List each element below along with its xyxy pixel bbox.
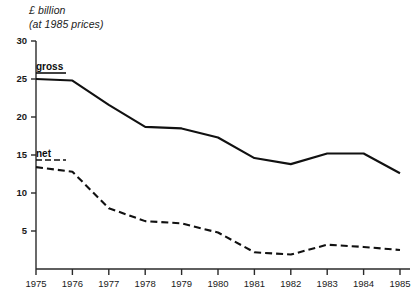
plot-area — [0, 0, 419, 300]
axis-ticks — [31, 41, 400, 275]
series-line-gross — [36, 79, 400, 173]
series-label-gross: gross — [36, 61, 63, 72]
series-label-net: net — [36, 148, 51, 159]
series-line-net — [36, 167, 400, 254]
chart-container: £ billion (at 1985 prices) 30252015105 1… — [0, 0, 419, 300]
data-series — [36, 73, 400, 255]
axis-lines — [36, 41, 410, 269]
